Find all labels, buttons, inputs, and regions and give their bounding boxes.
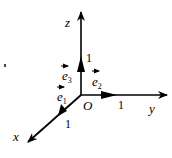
svg-text:e1: e1 [57, 89, 67, 106]
y-axis-label: y [147, 101, 155, 116]
origin-label: O [83, 98, 93, 113]
x-axis-label: x [12, 129, 19, 144]
e2-arrowhead-icon [101, 91, 117, 99]
y-unit-label: 1 [118, 98, 124, 112]
z-axis-label: z [64, 15, 70, 30]
svg-text:e3: e3 [62, 68, 72, 85]
x-axis [28, 95, 81, 142]
z-unit-label: 1 [86, 51, 92, 65]
coordinate-diagram: z y x O 1 1 1 e3 e2 e1 [0, 0, 172, 158]
e3-label: e3 [61, 66, 72, 85]
y-axis [81, 91, 167, 99]
stray-mark [4, 64, 6, 67]
z-axis [77, 12, 85, 95]
e3-arrowhead-icon [77, 56, 85, 72]
svg-text:e2: e2 [92, 74, 102, 91]
e2-label: e2 [92, 71, 102, 91]
e1-label: e1 [57, 87, 67, 106]
x-unit-label: 1 [65, 117, 71, 131]
